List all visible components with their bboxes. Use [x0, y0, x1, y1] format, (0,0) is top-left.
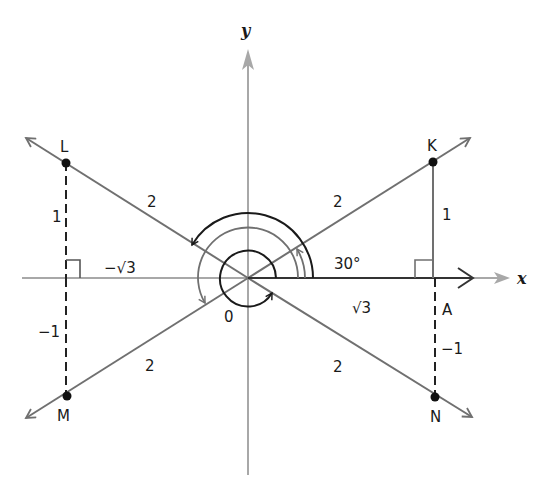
point-M — [63, 392, 72, 401]
point-K — [429, 158, 438, 167]
label-OA-length: √3 — [352, 299, 371, 317]
x-axis-label: x — [516, 269, 527, 288]
label-N: N — [430, 408, 441, 426]
y-axis — [242, 49, 254, 475]
point-L — [62, 159, 71, 168]
label-K: K — [427, 137, 438, 155]
label-OM-length: 2 — [145, 357, 155, 375]
right-angle-marker-A — [415, 260, 433, 278]
label-L-foot-length: 1 — [52, 208, 62, 226]
label-ON-length: 2 — [333, 358, 343, 376]
label-KA-length: 1 — [442, 206, 452, 224]
label-OK-length: 2 — [333, 193, 343, 211]
label-M: M — [57, 407, 70, 425]
ray-OM — [26, 278, 248, 418]
coordinate-diagram: x y K L M N A 0 2 2 2 2 1 1 −1 −1 √3 −√3 — [0, 0, 541, 487]
label-OL-length: 2 — [147, 193, 157, 211]
right-angle-marker-L — [66, 260, 80, 278]
label-origin: 0 — [224, 308, 234, 326]
label-negx-length: −√3 — [104, 259, 136, 277]
point-N — [431, 393, 440, 402]
y-axis-label: y — [240, 21, 252, 40]
label-L: L — [60, 138, 69, 156]
label-AN-length: −1 — [441, 340, 463, 358]
label-M-foot-length: −1 — [38, 323, 60, 341]
label-angle-30: 30° — [334, 255, 361, 273]
label-A: A — [442, 301, 453, 319]
